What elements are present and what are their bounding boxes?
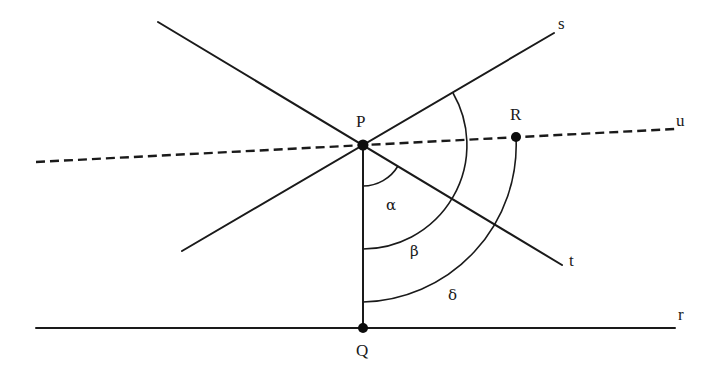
geometry-diagram: P Q R s t u r α β δ xyxy=(0,0,714,380)
label-t: t xyxy=(569,251,574,270)
angle-beta-arc xyxy=(363,93,467,249)
label-r-line: r xyxy=(678,305,684,324)
point-q xyxy=(358,323,368,333)
line-u xyxy=(36,129,675,162)
angle-delta-arc xyxy=(363,137,516,302)
label-u: u xyxy=(676,111,685,130)
label-alpha: α xyxy=(386,196,396,214)
point-p xyxy=(358,140,369,151)
label-delta: δ xyxy=(448,286,457,304)
label-beta: β xyxy=(410,242,419,260)
label-q: Q xyxy=(356,341,368,360)
angle-alpha-arc xyxy=(363,166,398,186)
label-s: s xyxy=(558,14,565,33)
label-p: P xyxy=(356,112,365,131)
label-r: R xyxy=(510,105,522,124)
point-r xyxy=(511,132,521,142)
